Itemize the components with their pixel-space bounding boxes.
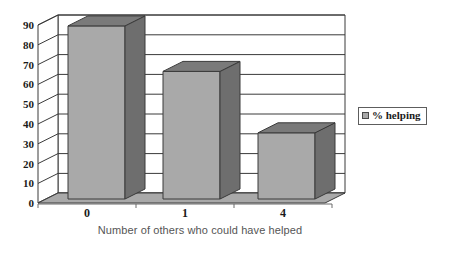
y-tick-label: 90 [8, 20, 34, 31]
bar-front-2 [258, 133, 315, 199]
y-tick-label: 30 [8, 138, 34, 149]
x-axis-title: Number of others who could have helped [0, 224, 400, 236]
bar-chart: 90 80 70 60 50 40 30 20 10 0 0 1 4 Numbe… [0, 0, 449, 253]
bar-side-2 [315, 123, 335, 199]
y-tick-label: 10 [8, 178, 34, 189]
y-tick-label: 20 [8, 158, 34, 169]
bar-front-0 [68, 26, 125, 199]
y-tick-label: 80 [8, 39, 34, 50]
bar-side-0 [125, 16, 145, 199]
y-tick-label: 0 [8, 198, 34, 209]
x-tick-label-0: 0 [67, 206, 107, 221]
x-tick-label-2: 4 [263, 206, 303, 221]
bar-front-1 [163, 71, 220, 199]
legend-square-icon [362, 112, 369, 119]
legend-label: % helping [372, 110, 421, 121]
bar-side-1 [220, 61, 240, 199]
y-tick-label: 40 [8, 119, 34, 130]
y-tick-label: 70 [8, 59, 34, 70]
y-axis-tick-labels: 90 80 70 60 50 40 30 20 10 0 [4, 0, 34, 253]
chart-legend: % helping [358, 107, 427, 125]
y-tick-label: 60 [8, 79, 34, 90]
y-tick-label: 50 [8, 99, 34, 110]
x-tick-label-1: 1 [165, 206, 205, 221]
